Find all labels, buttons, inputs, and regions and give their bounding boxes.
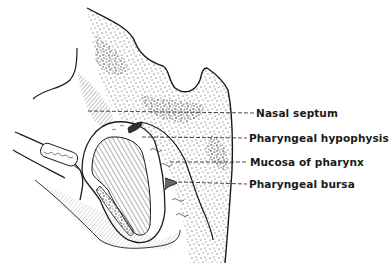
label-nasal-septum: Nasal septum: [256, 107, 338, 119]
label-mucosa-of-pharynx: Mucosa of pharynx: [250, 156, 364, 168]
label-pharyngeal-bursa: Pharyngeal bursa: [249, 178, 355, 190]
label-pharyngeal-hypophysis: Pharyngeal hypophysis: [249, 132, 389, 144]
